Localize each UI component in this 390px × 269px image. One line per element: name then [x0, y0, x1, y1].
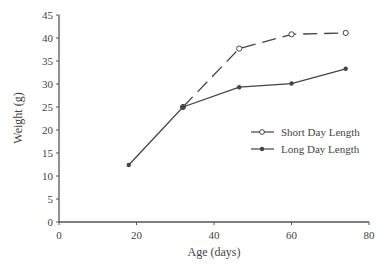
y-tick-label: 30	[42, 78, 54, 90]
y-tick-label: 15	[42, 147, 54, 159]
legend-marker-filled-circle-icon	[260, 147, 264, 151]
x-tick-label: 20	[131, 229, 143, 241]
line-chart: 051015202530354045 020406080 Age (days) …	[0, 0, 390, 269]
y-tick-label: 40	[42, 32, 54, 44]
y-tick-label: 45	[42, 9, 54, 21]
data-point	[181, 105, 185, 109]
legend: Short Day LengthLong Day Length	[251, 126, 360, 155]
axes	[59, 15, 369, 222]
y-tick-label: 0	[48, 216, 54, 228]
series-short-day-length	[180, 30, 348, 109]
y-tick-label: 35	[42, 55, 54, 67]
data-point	[237, 85, 241, 89]
y-tick-label: 10	[42, 170, 54, 182]
y-axis-label: Weight (g)	[11, 92, 25, 143]
x-tick-label: 60	[286, 229, 298, 241]
data-point	[343, 30, 348, 35]
y-axis-ticks: 051015202530354045	[42, 9, 59, 228]
x-axis-ticks: 020406080	[56, 222, 375, 241]
legend-label: Short Day Length	[281, 126, 360, 138]
y-tick-label: 5	[48, 193, 54, 205]
data-point	[127, 163, 131, 167]
x-axis-label: Age (days)	[188, 245, 241, 259]
legend-marker-open-circle-icon	[260, 130, 265, 135]
x-tick-label: 80	[364, 229, 376, 241]
y-tick-label: 25	[42, 101, 54, 113]
x-tick-label: 0	[56, 229, 62, 241]
x-tick-label: 40	[209, 229, 221, 241]
data-point	[344, 67, 348, 71]
y-tick-label: 20	[42, 124, 54, 136]
data-point	[289, 32, 294, 37]
data-point	[237, 46, 242, 51]
legend-label: Long Day Length	[281, 143, 360, 155]
data-point	[289, 81, 293, 85]
